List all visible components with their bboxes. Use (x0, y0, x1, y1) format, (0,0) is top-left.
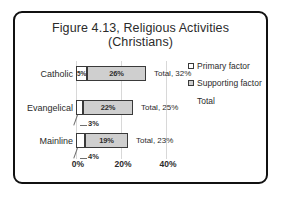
callout-leader-line (73, 115, 78, 126)
category-label-evangelical: Evangelical (15, 103, 73, 113)
category-label-mainline: Mainline (15, 136, 73, 146)
legend-item-primary-factor[interactable]: Primary factor (188, 57, 270, 74)
bar-segment-supporting-mainline[interactable]: 19% (85, 133, 128, 148)
callout-primary-evangelical: 3% (77, 115, 99, 128)
legend-item-supporting-factor[interactable]: Supporting factor (188, 74, 270, 91)
chart-title-line-2: (Christians) (15, 35, 266, 49)
stacked-bar-evangelical[interactable]: 22% (76, 100, 133, 115)
callout-leader-foot (80, 125, 87, 126)
x-axis: 0% 20% 40% (15, 159, 270, 173)
bar-value-supporting-mainline: 19% (99, 136, 114, 145)
legend-label-total: Total (197, 96, 215, 106)
total-label-catholic: Total, 32% (154, 69, 191, 78)
x-tick-label-0: 0% (72, 159, 84, 169)
x-tick-label-40: 40% (159, 159, 176, 169)
slide-frame: Figure 4.13, Religious Activities (Chris… (13, 11, 268, 184)
bar-value-supporting-evangelical: 22% (101, 103, 116, 112)
total-label-mainline: Total, 23% (136, 136, 173, 145)
bar-segment-primary-evangelical[interactable] (76, 100, 83, 115)
stacked-bar-catholic[interactable]: 5% 26% (76, 66, 146, 81)
legend-label-primary-factor: Primary factor (197, 61, 250, 71)
bar-value-supporting-catholic: 26% (109, 69, 124, 78)
legend-swatch-icon-primary (188, 63, 194, 69)
bar-segment-primary-catholic[interactable]: 5% (76, 66, 87, 81)
bar-segment-supporting-catholic[interactable]: 26% (87, 66, 146, 81)
bar-segment-supporting-evangelical[interactable]: 22% (83, 100, 133, 115)
callout-value-evangelical: 3% (88, 119, 99, 128)
chart-legend: Primary factor Supporting factor Total (188, 57, 270, 110)
scanned-slide-page: Figure 4.13, Religious Activities (Chris… (0, 0, 283, 197)
bar-row-mainline: Mainline 19% 4% Total, 23% (15, 129, 270, 159)
legend-swatch-icon-supporting (188, 80, 194, 86)
callout-leader-line (73, 148, 78, 159)
legend-item-total[interactable]: Total (188, 91, 270, 110)
total-label-evangelical: Total, 25% (141, 103, 178, 112)
bar-value-primary-catholic: 5% (77, 70, 86, 77)
chart-title: Figure 4.13, Religious Activities (Chris… (15, 21, 266, 49)
bar-segment-primary-mainline[interactable] (76, 133, 85, 148)
x-tick-label-20: 20% (114, 159, 131, 169)
stacked-bar-mainline[interactable]: 19% (76, 133, 128, 148)
category-label-catholic: Catholic (15, 69, 73, 79)
chart-title-line-1: Figure 4.13, Religious Activities (15, 21, 266, 35)
legend-label-supporting-factor: Supporting factor (197, 78, 262, 88)
